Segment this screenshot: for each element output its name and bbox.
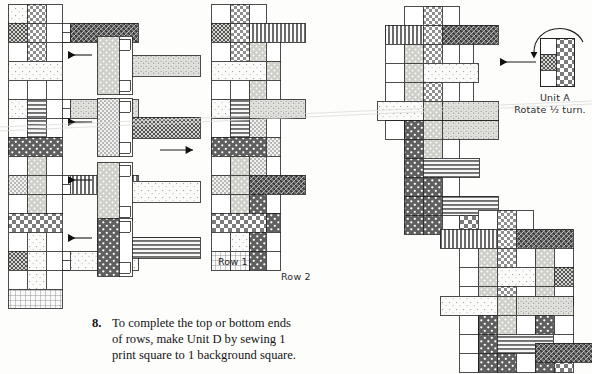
instruction-line-2: of rows, make Unit D by sewing 1 bbox=[112, 331, 354, 347]
unit-a-swatch bbox=[540, 38, 574, 86]
row-1-label: Row 1 bbox=[218, 256, 248, 268]
assembled-rows-block-middle bbox=[377, 6, 498, 234]
instruction-step-8: 8. To complete the top or bottom ends of… bbox=[92, 315, 354, 363]
instruction-number: 8. bbox=[92, 315, 112, 363]
unit-t-4 bbox=[97, 218, 200, 276]
unit-a-rotate-label: Rotate ½ turn. bbox=[508, 104, 592, 116]
instruction-line-1: To complete the top or bottom ends bbox=[112, 315, 354, 331]
instruction-line-3: print square to 1 background square. bbox=[112, 347, 354, 363]
instruction-text: To complete the top or bottom ends of ro… bbox=[112, 315, 354, 363]
unit-t-2 bbox=[97, 98, 200, 156]
unit-t-1 bbox=[97, 36, 200, 94]
row-2-label: Row 2 bbox=[281, 271, 311, 283]
row-2-pieced-strip bbox=[211, 4, 305, 270]
unit-t-3 bbox=[97, 162, 200, 220]
diagram-canvas: Row 1 Row 2 Unit A Rotate ½ turn. 8. To … bbox=[0, 0, 592, 374]
assembled-rows-block-bottom bbox=[440, 210, 592, 372]
unit-a-name-label: Unit A bbox=[518, 92, 592, 104]
